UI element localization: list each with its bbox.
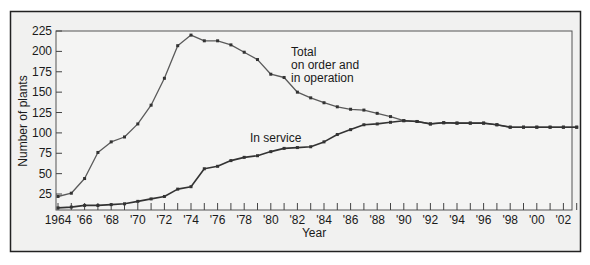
y-tick-label: 100 [32,126,52,140]
y-tick-label: 125 [32,106,52,120]
data-point-marker [70,206,73,209]
x-tick-label: '68 [103,213,119,227]
series-label-line: on order and [291,58,359,72]
y-tick-label: 50 [39,167,53,181]
data-point-marker [309,96,312,99]
data-point-marker [296,91,299,94]
data-point-marker [575,126,578,129]
data-point-marker [389,115,392,118]
x-tick-label: '84 [316,213,332,227]
data-point-marker [283,76,286,79]
x-tick-label: '98 [502,213,518,227]
x-tick-label: '90 [396,213,412,227]
series-label-in-service: In service [250,131,302,145]
data-point-marker [203,167,206,170]
data-point-marker [216,39,219,42]
data-point-marker [456,122,459,125]
data-point-marker [256,58,259,61]
x-tick-label: '66 [77,213,93,227]
data-point-marker [243,51,246,54]
data-point-marker [283,147,286,150]
data-point-marker [336,133,339,136]
data-point-marker [229,159,232,162]
x-tick-label: '92 [423,213,439,227]
data-point-marker [309,145,312,148]
data-point-marker [203,39,206,42]
x-tick-label: '96 [476,213,492,227]
data-point-marker [176,44,179,47]
data-point-marker [362,123,365,126]
data-point-marker [402,119,405,122]
data-point-marker [562,126,565,129]
data-point-marker [190,185,193,188]
data-point-marker [229,43,232,46]
data-point-marker [256,154,259,157]
x-tick-label: '70 [130,213,146,227]
series-label-line: Total [291,45,316,59]
data-point-marker [96,204,99,207]
data-point-marker [136,122,139,125]
x-tick-label: '80 [263,213,279,227]
data-point-marker [429,122,432,125]
data-point-marker [83,177,86,180]
chart-canvas: 255075100125150175200225 1964'66'68'70'7… [0,0,590,265]
y-tick-label: 225 [32,24,52,38]
data-point-marker [376,122,379,125]
data-point-marker [176,188,179,191]
data-point-marker [469,122,472,125]
y-tick-label: 200 [32,44,52,58]
x-axis-title: Year [302,226,326,240]
x-tick-label: '74 [183,213,199,227]
data-point-marker [482,122,485,125]
x-tick-label: '78 [236,213,252,227]
data-point-marker [163,77,166,80]
data-point-marker [110,140,113,143]
data-point-marker [136,200,139,203]
data-point-marker [123,202,126,205]
data-point-marker [83,204,86,207]
y-tick-label: 75 [39,146,53,160]
data-point-marker [296,146,299,149]
data-point-marker [269,73,272,76]
x-tick-label: '94 [449,213,465,227]
data-point-marker [495,123,498,126]
x-tick-label: '86 [343,213,359,227]
y-tick-label: 175 [32,65,52,79]
data-point-marker [389,121,392,124]
data-point-marker [549,126,552,129]
data-point-marker [442,121,445,124]
data-point-marker [163,195,166,198]
data-point-marker [323,140,326,143]
data-point-marker [190,34,193,37]
data-point-marker [416,120,419,123]
x-tick-label: '88 [369,213,385,227]
data-point-marker [110,203,113,206]
data-point-marker [323,101,326,104]
data-point-marker [57,195,60,198]
x-tick-label: '82 [290,213,306,227]
y-axis-title: Number of plants [16,75,30,166]
data-point-marker [336,105,339,108]
data-point-marker [349,128,352,131]
x-tick-label: '00 [529,213,545,227]
data-point-marker [243,156,246,159]
data-point-marker [70,192,73,195]
data-point-marker [269,150,272,153]
data-point-marker [150,104,153,107]
data-point-marker [57,206,60,209]
series-label-line: in operation [291,71,354,85]
data-point-marker [522,126,525,129]
x-tick-label: '02 [556,213,572,227]
chart: 255075100125150175200225 1964'66'68'70'7… [0,0,590,265]
x-tick-label: '76 [210,213,226,227]
data-point-marker [349,108,352,111]
y-tick-label: 25 [39,187,53,201]
data-point-marker [123,135,126,138]
data-point-marker [509,126,512,129]
data-point-marker [96,151,99,154]
x-tick-label: 1964 [45,213,72,227]
data-point-marker [376,112,379,115]
data-point-marker [150,197,153,200]
x-tick-label: '72 [157,213,173,227]
data-point-marker [362,109,365,112]
